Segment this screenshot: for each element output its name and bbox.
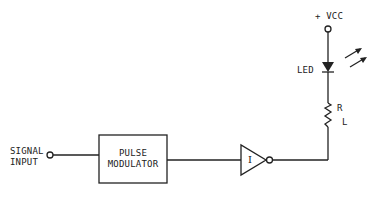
resistor-subscript-label: L	[342, 117, 348, 127]
vcc-terminal-icon	[325, 26, 331, 32]
signal-input-label-line1: SIGNAL	[10, 146, 44, 156]
led-label: LED	[297, 65, 314, 75]
inverter-label: I	[248, 155, 252, 165]
schematic-wires	[0, 0, 378, 204]
vcc-label: + VCC	[315, 11, 343, 21]
modulator-label-line1: PULSE	[99, 148, 167, 158]
inverter-triangle-icon	[241, 145, 266, 175]
inverter-bubble-icon	[267, 157, 273, 163]
modulator-label-line2: MODULATOR	[99, 159, 167, 169]
resistor-label: R	[337, 103, 343, 113]
led-diode-icon	[322, 62, 334, 72]
signal-input-label-line2: INPUT	[10, 157, 38, 167]
circuit-diagram: SIGNAL INPUT PULSE MODULATOR I + VCC LED…	[0, 0, 378, 204]
signal-input-terminal-icon	[47, 152, 53, 158]
resistor-icon	[325, 103, 331, 127]
